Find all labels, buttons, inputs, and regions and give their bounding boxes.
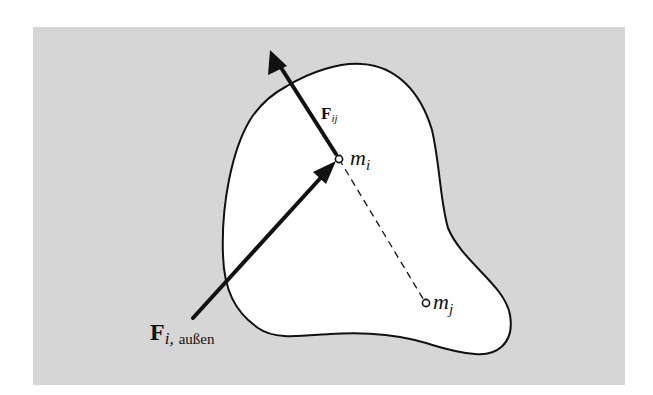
mass-j-point [422, 299, 429, 306]
mass-i-point [335, 155, 342, 162]
rigid-body-force-diagram: Fij mi mj Fi,außen [0, 0, 653, 395]
